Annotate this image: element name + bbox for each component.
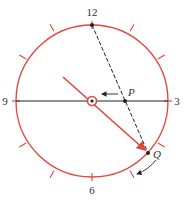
point-twelve-dot (90, 23, 94, 27)
point-p-dot (123, 99, 127, 103)
label-q: Q (153, 148, 161, 160)
clock-diagram: 12 3 6 9 P Q (0, 0, 186, 202)
label-p: P (127, 86, 135, 98)
label-3: 3 (174, 95, 180, 107)
label-12: 12 (87, 6, 98, 18)
label-6: 6 (89, 184, 95, 196)
point-q-dot (146, 151, 150, 155)
q-direction-arrow (137, 160, 156, 174)
label-9: 9 (2, 95, 8, 107)
center-dot (90, 99, 93, 102)
dashed-projection-line (92, 25, 148, 153)
